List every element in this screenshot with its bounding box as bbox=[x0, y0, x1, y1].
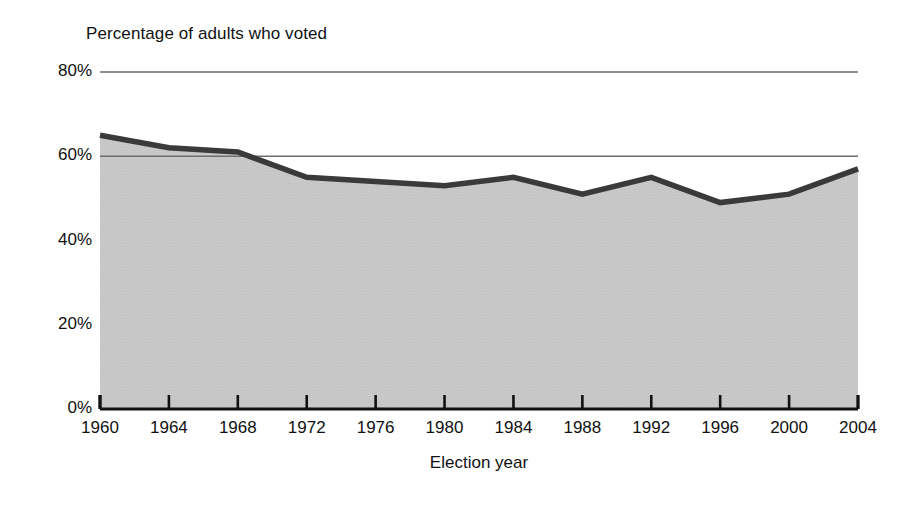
voter-turnout-area-chart: Percentage of adults who voted 0%20%40%6… bbox=[0, 0, 919, 506]
x-tick-label: 1976 bbox=[357, 418, 395, 438]
x-tick-label: 1980 bbox=[426, 418, 464, 438]
x-tick-label: 1968 bbox=[219, 418, 257, 438]
x-tick-label: 1992 bbox=[632, 418, 670, 438]
x-tick-label: 2000 bbox=[770, 418, 808, 438]
x-axis-tick-labels: 1960196419681972197619801984198819921996… bbox=[0, 0, 919, 506]
x-axis-caption: Election year bbox=[430, 453, 528, 473]
x-tick-label: 1972 bbox=[288, 418, 326, 438]
x-tick-label: 1964 bbox=[150, 418, 188, 438]
x-tick-label: 1984 bbox=[495, 418, 533, 438]
x-tick-label: 1996 bbox=[701, 418, 739, 438]
x-tick-label: 1960 bbox=[81, 418, 119, 438]
x-tick-label: 2004 bbox=[839, 418, 877, 438]
x-tick-label: 1988 bbox=[563, 418, 601, 438]
